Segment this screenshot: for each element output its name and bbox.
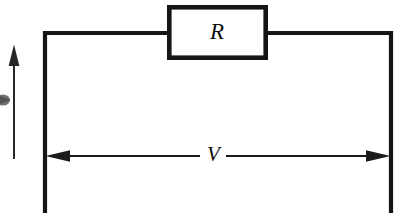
- scan-smudge-mark: [0, 95, 11, 106]
- voltage-label: V: [207, 142, 222, 166]
- current-arrowhead: [9, 45, 20, 67]
- voltage-annotation: V: [46, 142, 391, 169]
- circuit-diagram-figure: R V: [0, 0, 413, 223]
- circuit-canvas: R V: [0, 0, 413, 223]
- current-annotation: [9, 45, 20, 160]
- voltage-arrowhead-right: [366, 150, 391, 162]
- resistor-label: R: [209, 19, 224, 44]
- resistor-component: R: [169, 7, 265, 57]
- voltage-arrowhead-left: [46, 150, 71, 162]
